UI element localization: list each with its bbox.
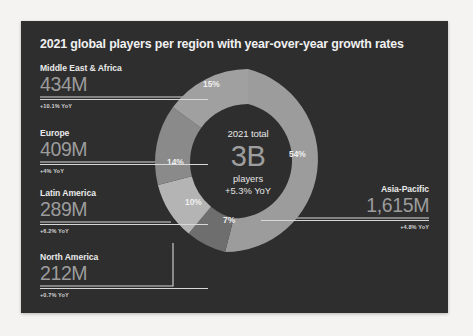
callout-europe-name: Europe: [40, 128, 208, 138]
callout-namerica-value: 212M: [40, 263, 208, 285]
callout-apac-rule: [261, 220, 429, 221]
callout-apac[interactable]: Asia-Pacific 1,615M +4.8% YoY: [261, 184, 429, 230]
callout-mea[interactable]: Middle East & Africa 434M +10.1% YoY: [40, 63, 208, 109]
callout-latam-growth: +6.2% YoY: [40, 228, 208, 234]
callout-apac-name: Asia-Pacific: [261, 184, 429, 194]
callout-europe-value: 409M: [40, 139, 208, 161]
callout-namerica[interactable]: North America 212M +0.7% YoY: [40, 252, 208, 298]
callout-mea-growth: +10.1% YoY: [40, 103, 208, 109]
callout-europe[interactable]: Europe 409M +4% YoY: [40, 128, 208, 174]
callout-apac-growth: +4.8% YoY: [261, 224, 429, 230]
callout-latam[interactable]: Latin America 289M +6.2% YoY: [40, 188, 208, 234]
pct-label-apac: 54%: [289, 149, 306, 159]
chart-card: 2021 global players per region with year…: [21, 21, 448, 313]
callout-latam-rule: [40, 224, 208, 225]
callout-apac-value: 1,615M: [261, 195, 429, 217]
callout-europe-growth: +4% YoY: [40, 168, 208, 174]
callout-mea-rule: [40, 99, 208, 100]
callout-mea-name: Middle East & Africa: [40, 63, 208, 73]
callout-latam-name: Latin America: [40, 188, 208, 198]
callout-namerica-name: North America: [40, 252, 208, 262]
callout-europe-rule: [40, 164, 208, 165]
callout-mea-value: 434M: [40, 74, 208, 96]
callout-namerica-growth: +0.7% YoY: [40, 292, 208, 298]
page-root: 2021 global players per region with year…: [0, 0, 473, 336]
callout-namerica-rule: [40, 288, 208, 289]
pct-label-namerica: 7%: [223, 215, 235, 225]
callout-latam-value: 289M: [40, 199, 208, 221]
page-title: 2021 global players per region with year…: [40, 37, 404, 51]
